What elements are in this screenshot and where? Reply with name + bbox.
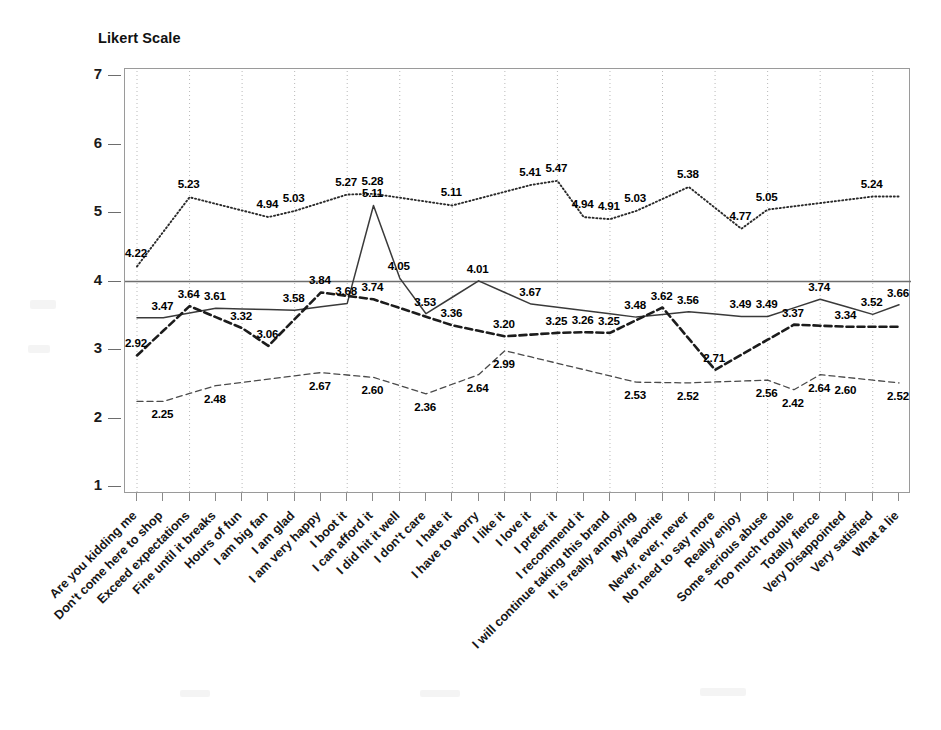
data-value-label: 5.27 (335, 174, 357, 187)
data-value-label: 3.47 (151, 298, 173, 311)
data-value-label: 5.11 (441, 185, 462, 198)
data-value-label: 4.01 (467, 261, 489, 274)
data-value-label: 3.34 (835, 307, 857, 320)
data-value-label: 3.36 (440, 306, 462, 319)
data-value-label: 5.24 (861, 176, 883, 189)
data-value-label: 3.37 (782, 305, 804, 318)
data-value-label: 3.58 (283, 291, 305, 304)
data-value-label: 3.67 (519, 285, 541, 298)
x-axis-labels: Are you kidding meDon't come here to sho… (0, 0, 941, 730)
data-value-label: 5.11 (362, 186, 383, 199)
data-value-label: 3.64 (178, 287, 200, 300)
data-value-label: 2.60 (835, 383, 857, 396)
data-value-label: 3.25 (598, 313, 620, 326)
data-value-label: 5.41 (519, 164, 541, 177)
data-value-label: 2.67 (309, 378, 331, 391)
data-value-label: 2.36 (414, 399, 436, 412)
data-value-label: 3.48 (624, 298, 646, 311)
data-value-label: 5.47 (546, 160, 568, 173)
data-value-label: 2.60 (362, 383, 384, 396)
data-value-label: 3.52 (861, 295, 883, 308)
data-value-label: 3.84 (309, 273, 331, 286)
data-value-label: 4.94 (256, 197, 278, 210)
data-value-label: 5.03 (624, 190, 646, 203)
data-value-label: 4.77 (729, 208, 751, 221)
data-value-label: 2.25 (151, 407, 173, 420)
data-value-label: 3.49 (756, 297, 778, 310)
data-value-label: 5.05 (756, 189, 778, 202)
data-value-label: 3.25 (546, 313, 568, 326)
data-value-label: 4.91 (598, 199, 620, 212)
data-value-label: 4.94 (572, 197, 594, 210)
data-value-label: 3.26 (572, 313, 594, 326)
data-value-label: 2.71 (703, 350, 725, 363)
data-value-label: 3.62 (651, 288, 673, 301)
data-value-label: 3.06 (256, 326, 278, 339)
data-value-label: 2.64 (467, 380, 489, 393)
data-value-label: 4.22 (125, 246, 147, 259)
data-value-label: 3.32 (230, 309, 252, 322)
data-value-label: 2.52 (887, 388, 909, 401)
data-value-label: 3.61 (204, 289, 226, 302)
data-value-label: 5.28 (362, 173, 384, 186)
data-value-label: 2.64 (808, 380, 830, 393)
data-value-label: 2.42 (782, 395, 804, 408)
data-value-label: 5.03 (283, 190, 305, 203)
data-value-label: 3.74 (362, 280, 384, 293)
data-value-label: 2.56 (756, 386, 778, 399)
data-value-label: 3.53 (414, 294, 436, 307)
data-value-label: 3.66 (887, 285, 909, 298)
data-value-label: 3.20 (493, 317, 515, 330)
chart-page: Likert Scale 7654321 Are you kidding meD… (0, 0, 941, 730)
data-value-label: 5.38 (677, 166, 699, 179)
data-value-label: 2.99 (493, 356, 515, 369)
data-value-label: 3.56 (677, 292, 699, 305)
data-value-label: 3.74 (808, 280, 830, 293)
data-value-label: 2.92 (125, 336, 147, 349)
data-value-label: 3.49 (729, 297, 751, 310)
data-value-label: 5.23 (178, 177, 200, 190)
data-value-label: 2.52 (677, 388, 699, 401)
data-value-label: 3.68 (335, 284, 357, 297)
data-value-label: 4.05 (388, 259, 410, 272)
data-value-label: 2.48 (204, 391, 226, 404)
data-value-label: 2.53 (624, 388, 646, 401)
